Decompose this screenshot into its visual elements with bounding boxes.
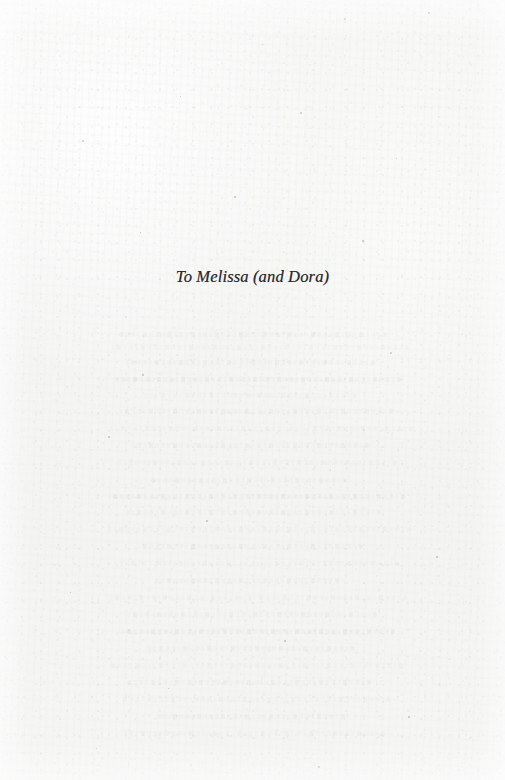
show-through-line bbox=[119, 629, 395, 634]
show-through-line bbox=[107, 426, 413, 431]
paper-speck bbox=[428, 12, 430, 14]
paper-speck bbox=[396, 158, 397, 159]
paper-grain-coarse bbox=[0, 0, 505, 780]
show-through-line bbox=[137, 544, 363, 549]
show-through-line bbox=[119, 409, 393, 414]
paper-speck bbox=[142, 374, 144, 376]
paper-fiber-texture bbox=[0, 0, 505, 780]
show-through-line bbox=[123, 510, 381, 515]
show-through-line bbox=[131, 443, 369, 448]
paper-grain-fine bbox=[0, 0, 505, 780]
show-through-line bbox=[127, 680, 371, 685]
paper-speck bbox=[108, 436, 110, 438]
paper-speck bbox=[262, 44, 263, 45]
paper-speck bbox=[234, 196, 236, 198]
dedication-page: To Melissa (and Dora) bbox=[0, 0, 505, 780]
show-through-line bbox=[111, 663, 403, 668]
paper-speck bbox=[362, 240, 364, 242]
show-through-line bbox=[151, 478, 347, 483]
show-through-line bbox=[113, 377, 401, 382]
show-through-line bbox=[145, 646, 355, 651]
paper-speck bbox=[70, 592, 71, 593]
paper-speck bbox=[436, 556, 438, 558]
show-through-text bbox=[0, 0, 505, 780]
paper-speck bbox=[206, 520, 208, 522]
show-through-line bbox=[109, 595, 407, 600]
paper-speck bbox=[82, 140, 84, 142]
paper-speck bbox=[390, 352, 392, 354]
paper-speck bbox=[96, 748, 97, 749]
paper-speck bbox=[300, 112, 302, 114]
paper-speck bbox=[330, 470, 331, 471]
show-through-line bbox=[123, 731, 385, 736]
show-through-line bbox=[143, 393, 357, 398]
show-through-line bbox=[109, 494, 405, 499]
paper-speck bbox=[168, 688, 169, 689]
show-through-line bbox=[107, 527, 411, 532]
show-through-line bbox=[109, 345, 409, 350]
show-through-line bbox=[155, 578, 339, 583]
show-through-line bbox=[119, 332, 387, 337]
show-through-line bbox=[125, 612, 377, 617]
scan-edge-vignette bbox=[0, 0, 505, 780]
show-through-line bbox=[115, 561, 399, 566]
paper-speck bbox=[180, 96, 181, 97]
show-through-line bbox=[125, 360, 375, 365]
show-through-line bbox=[121, 697, 391, 702]
paper-speck bbox=[318, 766, 320, 768]
paper-speck bbox=[408, 716, 410, 718]
paper-specks bbox=[0, 0, 505, 780]
paper-speck bbox=[140, 232, 141, 233]
paper-speck bbox=[344, 18, 346, 20]
show-through-line bbox=[117, 460, 397, 465]
dedication-text: To Melissa (and Dora) bbox=[0, 269, 505, 286]
show-through-line bbox=[155, 714, 345, 719]
paper-speck bbox=[284, 640, 286, 642]
